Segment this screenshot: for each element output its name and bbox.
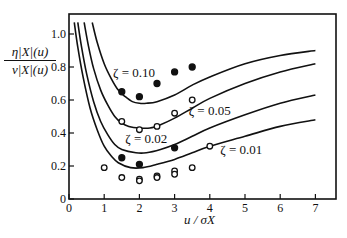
curves — [74, 22, 315, 168]
x-tick-label: 5 — [242, 201, 248, 215]
curve-line — [92, 22, 315, 103]
data-points — [101, 64, 212, 184]
y-axis-label: η|X|(u) ν|X|(u) — [4, 44, 56, 77]
x-axis-label: u / σX — [184, 212, 215, 228]
x-tick-label: 1 — [101, 201, 107, 215]
x-tick-label: 0 — [66, 201, 72, 215]
zeta-annotation: ζ = 0.10 — [113, 65, 155, 80]
filled-data-point — [154, 81, 160, 87]
open-data-point — [101, 165, 107, 171]
y-tick-label: 0.2 — [51, 159, 66, 173]
open-data-point — [137, 178, 143, 184]
filled-data-point — [136, 161, 142, 167]
filled-data-point — [172, 69, 178, 75]
filled-data-point — [119, 155, 125, 161]
filled-data-point — [189, 64, 195, 70]
curve-line — [74, 22, 315, 168]
y-tick-label: 0.6 — [51, 93, 66, 107]
zeta-annotation: ζ = 0.02 — [125, 131, 167, 146]
open-data-point — [154, 124, 160, 130]
zeta-annotation: ζ = 0.01 — [220, 142, 262, 157]
filled-data-point — [119, 89, 125, 95]
x-tick-label: 3 — [172, 201, 178, 215]
filled-data-point — [136, 94, 142, 100]
x-tick-label: 6 — [277, 201, 283, 215]
curve-line — [78, 22, 316, 153]
open-data-point — [154, 175, 160, 181]
x-tick-label: 7 — [312, 201, 318, 215]
zeta-annotation: ζ = 0.05 — [189, 103, 231, 118]
open-data-point — [119, 175, 125, 181]
y-label-numerator: η|X|(u) — [4, 44, 56, 61]
y-tick-label: 1.0 — [51, 27, 66, 41]
y-tick-label: 0.4 — [51, 126, 66, 140]
open-data-point — [172, 110, 178, 116]
open-data-point — [207, 143, 213, 149]
chart-plot: 0123456700.20.40.60.81.0 ζ = 0.10ζ = 0.0… — [0, 0, 347, 238]
open-data-point — [172, 171, 178, 177]
y-label-denominator: ν|X|(u) — [4, 61, 56, 77]
open-data-point — [189, 165, 195, 171]
filled-data-point — [172, 145, 178, 151]
open-data-point — [119, 119, 125, 125]
x-tick-label: 2 — [136, 201, 142, 215]
y-tick-label: 0 — [60, 192, 66, 206]
